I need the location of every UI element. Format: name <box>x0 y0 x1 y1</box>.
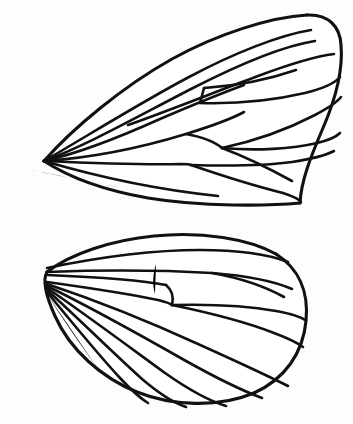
caption-strip <box>0 415 353 424</box>
venation-illustration <box>0 0 353 424</box>
wing-venation-figure <box>0 0 353 424</box>
